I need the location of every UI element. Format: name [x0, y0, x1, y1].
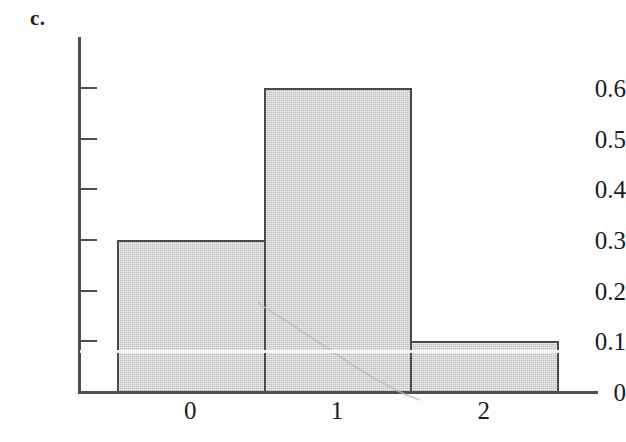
y-tick-mark — [81, 340, 97, 342]
y-tick-label: 0 — [554, 380, 626, 405]
histogram-figure: c. 0.60.50.40.30.20.10 012 — [0, 0, 626, 442]
y-tick-label: 0.6 — [554, 76, 626, 101]
bar-0 — [117, 240, 266, 394]
y-tick-mark — [81, 87, 97, 89]
y-tick-mark — [81, 138, 97, 140]
y-tick-label: 0.3 — [554, 228, 626, 253]
y-tick-label: 0.1 — [554, 329, 626, 354]
x-tick-label: 1 — [307, 398, 367, 423]
y-tick-mark — [81, 239, 97, 241]
plot-area: 0.60.50.40.30.20.10 012 — [0, 0, 626, 442]
x-tick-label: 0 — [160, 398, 220, 423]
y-tick-label: 0.2 — [554, 278, 626, 303]
y-tick-label: 0.5 — [554, 126, 626, 151]
x-axis-line — [78, 391, 598, 394]
bar-1 — [264, 88, 413, 394]
bar-2 — [410, 341, 559, 394]
y-tick-mark — [81, 290, 97, 292]
x-tick-label: 2 — [454, 398, 514, 423]
y-tick-label: 0.4 — [554, 177, 626, 202]
y-tick-mark — [81, 188, 97, 190]
